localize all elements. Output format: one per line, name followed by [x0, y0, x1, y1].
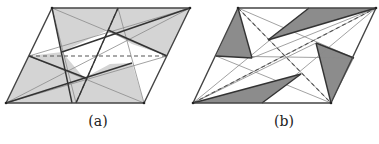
- panel-a-vertex-dot: [51, 7, 54, 10]
- panel-a-label: (a): [78, 113, 118, 129]
- diagram-canvas: [0, 0, 379, 144]
- panel-a-vertex-dot: [189, 7, 192, 10]
- panel-b-vertex-dot: [330, 102, 333, 105]
- panel-b-vertex-dot: [237, 7, 240, 10]
- panel-a-shaded-region: [76, 63, 144, 103]
- panel-a-vertex-dot: [5, 102, 8, 105]
- panel-b-vertex-dot: [375, 7, 378, 10]
- panel-a-vertex-dot: [143, 102, 146, 105]
- panel-b-label: (b): [264, 113, 304, 129]
- panel-b-vertex-dot: [192, 102, 195, 105]
